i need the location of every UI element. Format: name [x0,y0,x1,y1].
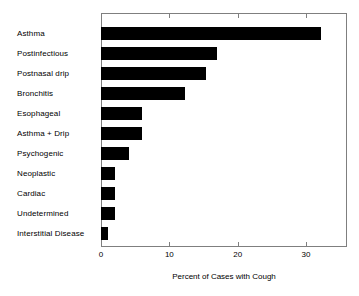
bar [101,147,129,160]
bar [101,127,142,140]
plot-area [101,13,347,247]
category-label: Bronchitis [17,89,53,99]
x-tick-label: 0 [99,250,103,260]
bar [101,87,185,100]
bar [101,107,142,120]
x-tick-label: 30 [302,250,311,260]
bar [101,207,115,220]
category-label: Psychogenic [17,149,63,159]
x-tick-bottom [238,242,239,247]
bar [101,167,115,180]
x-tick-label: 20 [233,250,242,260]
category-label: Cardiac [17,189,45,199]
bar [101,47,217,60]
x-tick-top [169,13,170,18]
x-tick-top [101,13,102,18]
x-tick-bottom [306,242,307,247]
bar [101,27,321,40]
bar-chart: AsthmaPostinfectiousPostnasal dripBronch… [0,0,359,296]
category-label: Esophageal [17,109,60,119]
category-label: Interstitial Disease [17,229,84,239]
category-label: Postinfectious [17,49,68,59]
x-tick-top [306,13,307,18]
category-label: Postnasal drip [17,69,69,79]
x-axis-title: Percent of Cases with Cough [101,272,347,282]
x-tick-top [238,13,239,18]
category-label: Undetermined [17,209,68,219]
category-axis-labels: AsthmaPostinfectiousPostnasal dripBronch… [0,0,98,296]
category-label: Neoplastic [17,169,55,179]
bar [101,227,108,240]
x-tick-bottom [169,242,170,247]
category-label: Asthma [17,29,45,39]
x-tick-label: 10 [165,250,174,260]
bar [101,67,206,80]
category-label: Asthma + Drip [17,129,69,139]
bar [101,187,115,200]
x-tick-bottom [101,242,102,247]
